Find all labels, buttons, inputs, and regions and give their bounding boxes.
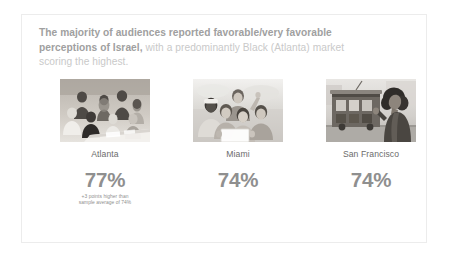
city-column-san-francisco: San Francisco 74%: [314, 79, 428, 207]
footnote-line-2: sample average of 74%: [79, 200, 131, 206]
san-francisco-cable-car-photo: [326, 79, 416, 142]
city-columns: Atlanta 77% +3 points higher than sample…: [22, 79, 428, 207]
slide-card: The majority of audiences reported favor…: [21, 14, 427, 243]
percentage-san-francisco: 74%: [351, 169, 391, 191]
city-column-miami: Miami 74%: [181, 79, 295, 207]
slide: The majority of audiences reported favor…: [0, 0, 449, 259]
percentage-miami: 74%: [218, 169, 258, 191]
footnote-atlanta: +3 points higher than sample average of …: [79, 194, 131, 207]
percentage-atlanta: 77%: [85, 169, 125, 191]
miami-group-selfie-photo: [193, 79, 283, 142]
city-label-atlanta: Atlanta: [91, 149, 118, 160]
city-column-atlanta: Atlanta 77% +3 points higher than sample…: [48, 79, 162, 207]
city-label-miami: Miami: [226, 149, 249, 160]
city-label-san-francisco: San Francisco: [343, 149, 399, 160]
atlanta-group-photo: [60, 79, 150, 142]
page-title: The majority of audiences reported favor…: [39, 26, 369, 70]
